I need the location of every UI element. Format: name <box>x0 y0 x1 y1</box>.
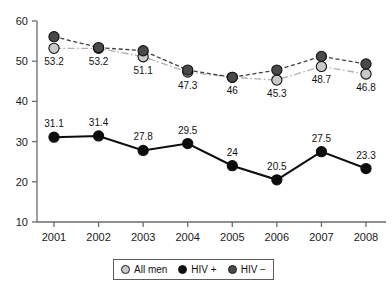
x-tick-label-2007: 2007 <box>309 231 333 243</box>
data-point-1-0 <box>49 132 59 142</box>
data-point-2-5 <box>272 65 282 75</box>
x-tick-label-2001: 2001 <box>42 231 66 243</box>
y-tick-label-40: 40 <box>16 95 28 107</box>
value-label-1-7: 23.3 <box>356 150 376 161</box>
x-axis-tick-labels: 20012002200320042005200620072008 <box>42 231 378 243</box>
legend-marker-icon <box>178 265 187 274</box>
data-point-1-4 <box>227 161 237 171</box>
data-point-1-5 <box>272 175 282 185</box>
data-point-2-6 <box>316 51 326 61</box>
x-axis: 20012002200320042005200620072008 <box>37 222 386 243</box>
data-point-0-6 <box>316 61 326 71</box>
legend-item-1[interactable]: HIV + <box>178 264 216 275</box>
data-point-2-7 <box>361 59 371 69</box>
data-point-1-1 <box>93 131 103 141</box>
value-label-0-5: 45.3 <box>267 88 287 99</box>
line-chart-plot: 60 50 40 30 20 10 2001200220032004200520… <box>0 0 392 288</box>
data-point-0-5 <box>272 75 282 85</box>
data-point-2-1 <box>93 42 103 52</box>
data-point-0-0 <box>49 43 59 53</box>
x-axis-ticks <box>54 222 366 227</box>
value-label-1-0: 31.1 <box>44 118 64 129</box>
value-label-1-5: 20.5 <box>267 161 287 172</box>
data-point-2-2 <box>138 46 148 56</box>
legend-item-label: All men <box>134 264 167 275</box>
y-tick-label-20: 20 <box>16 176 28 188</box>
legend-item-0[interactable]: All men <box>121 264 167 275</box>
x-tick-label-2002: 2002 <box>86 231 110 243</box>
chart-legend: All menHIV +HIV − <box>113 259 274 280</box>
legend-item-label: HIV + <box>191 264 216 275</box>
data-point-2-0 <box>49 32 59 42</box>
value-label-0-1: 53.2 <box>89 56 109 67</box>
value-label-0-7: 46.8 <box>356 82 376 93</box>
value-label-1-4: 24 <box>227 147 239 158</box>
value-label-0-6: 48.7 <box>312 74 332 85</box>
value-label-0-3: 47.3 <box>178 80 198 91</box>
x-tick-label-2008: 2008 <box>354 231 378 243</box>
y-axis-tick-labels: 60 50 40 30 20 10 <box>16 15 28 228</box>
legend-marker-icon <box>121 265 130 274</box>
value-label-0-2: 51.1 <box>133 65 153 76</box>
value-label-1-1: 31.4 <box>89 117 109 128</box>
value-label-1-3: 29.5 <box>178 125 198 136</box>
value-label-0-4: 46 <box>227 85 239 96</box>
legend-marker-icon <box>228 265 237 274</box>
x-tick-label-2006: 2006 <box>265 231 289 243</box>
y-tick-label-50: 50 <box>16 55 28 67</box>
value-label-1-2: 27.8 <box>133 131 153 142</box>
y-axis: 60 50 40 30 20 10 <box>16 15 37 228</box>
y-tick-label-10: 10 <box>16 216 28 228</box>
x-tick-label-2005: 2005 <box>220 231 244 243</box>
data-point-2-4 <box>227 72 237 82</box>
value-label-0-0: 53.2 <box>44 56 64 67</box>
x-tick-label-2004: 2004 <box>175 231 199 243</box>
x-tick-label-2003: 2003 <box>131 231 155 243</box>
data-point-0-7 <box>361 69 371 79</box>
data-point-1-2 <box>138 145 148 155</box>
chart-container: 60 50 40 30 20 10 2001200220032004200520… <box>0 0 392 288</box>
value-label-1-6: 27.5 <box>312 133 332 144</box>
y-tick-label-60: 60 <box>16 15 28 27</box>
y-axis-ticks <box>32 21 37 222</box>
data-point-1-6 <box>316 147 326 157</box>
data-point-2-3 <box>183 65 193 75</box>
series-markers-group <box>49 32 371 185</box>
y-tick-label-30: 30 <box>16 136 28 148</box>
data-point-1-3 <box>183 139 193 149</box>
legend-item-2[interactable]: HIV − <box>228 264 266 275</box>
data-point-1-7 <box>361 163 371 173</box>
legend-item-label: HIV − <box>241 264 266 275</box>
